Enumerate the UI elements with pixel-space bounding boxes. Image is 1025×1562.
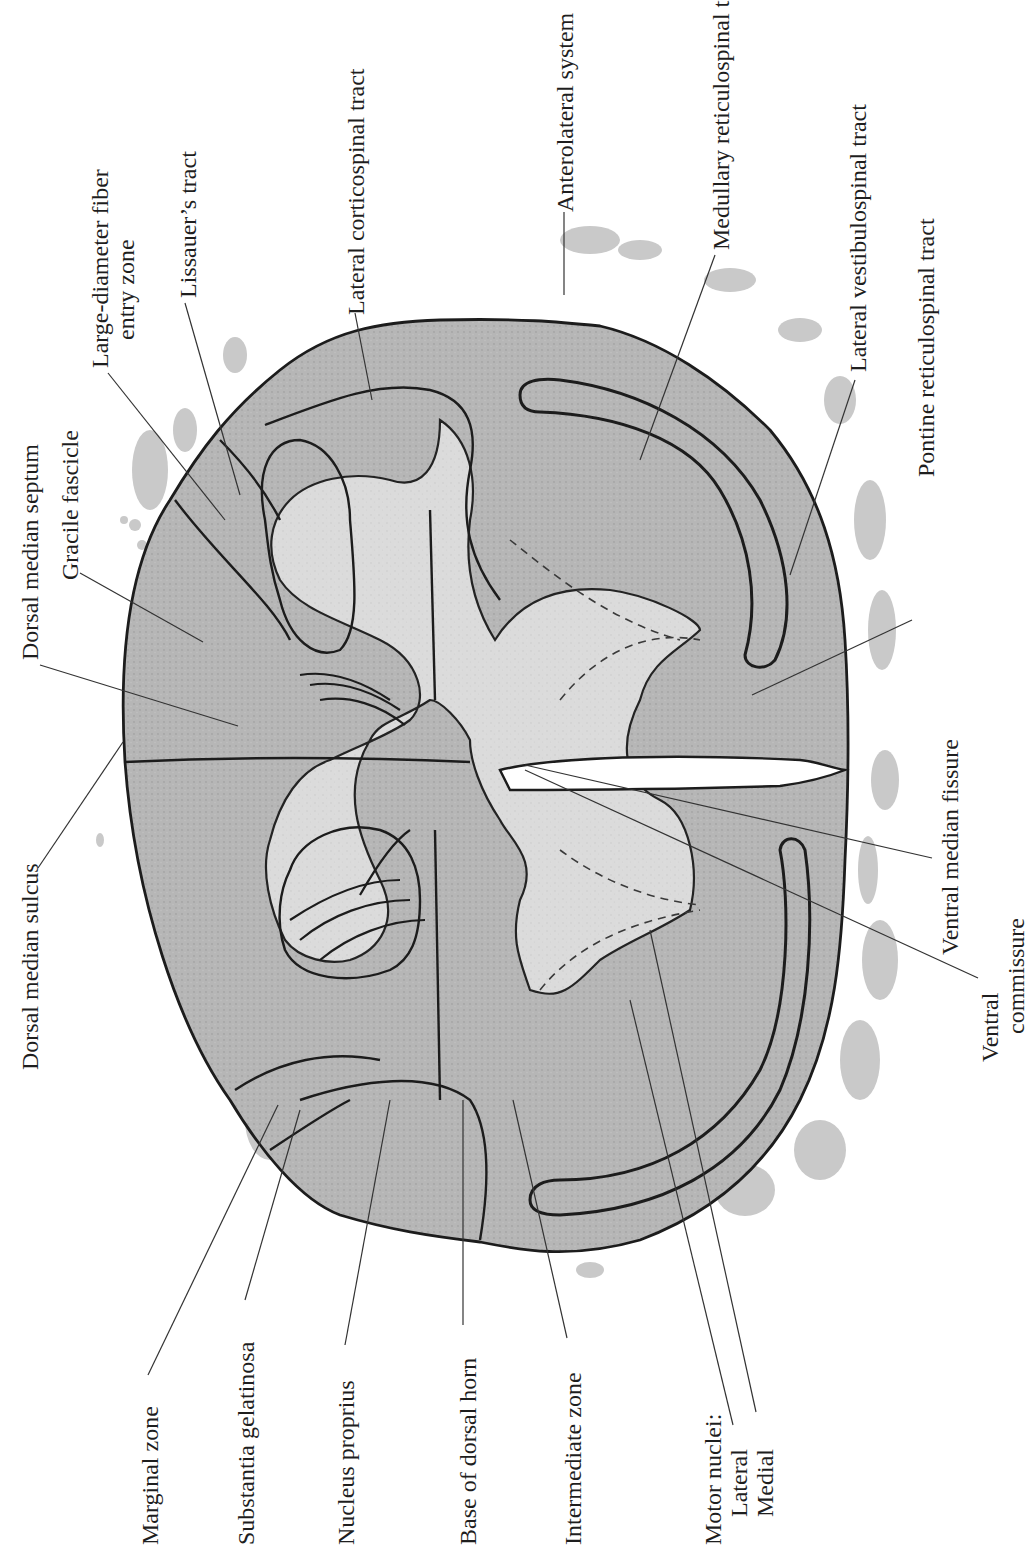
label-lissauers-tract: Lissauer’s tract xyxy=(175,151,201,298)
motor-nuclei-heading: Motor nuclei: xyxy=(700,1414,726,1545)
label-large-diameter-fiber-entry-zone: Large-diameter fiber entry zone xyxy=(87,169,139,368)
label-nucleus-proprius: Nucleus proprius xyxy=(333,1380,359,1545)
label-dorsal-median-sulcus: Dorsal median sulcus xyxy=(17,863,43,1070)
label-base-of-dorsal-horn: Base of dorsal horn xyxy=(455,1358,481,1545)
label-lateral-corticospinal-tract: Lateral corticospinal tract xyxy=(343,68,369,315)
label-marginal-zone: Marginal zone xyxy=(137,1406,163,1545)
label-dorsal-median-septum: Dorsal median septum xyxy=(17,444,43,660)
label-motor-nuclei: Motor nuclei: Lateral Medial xyxy=(700,1414,778,1545)
label-lateral-vestibulospinal-tract: Lateral vestibulospinal tract xyxy=(845,104,871,372)
spinal-cord-diagram xyxy=(0,0,1025,1562)
ventral-median-fissure xyxy=(500,757,845,790)
label-substantia-gelatinosa: Substantia gelatinosa xyxy=(233,1342,259,1545)
motor-nuclei-lateral: Lateral xyxy=(726,1414,752,1545)
label-anterolateral-system: Anterolateral system xyxy=(552,13,578,212)
label-ventral-median-fissure: Ventral median fissure xyxy=(937,739,963,955)
label-gracile-fascicle: Gracile fascicle xyxy=(57,430,83,580)
label-medullary-reticulospinal-tract: Medullary reticulospinal tract xyxy=(708,0,734,250)
label-intermediate-zone: Intermediate zone xyxy=(560,1372,586,1545)
label-ventral-commissure: Ventral commissure xyxy=(977,918,1025,1062)
label-pontine-reticulospinal-tract: Pontine reticulospinal tract xyxy=(913,218,939,477)
motor-nuclei-medial: Medial xyxy=(752,1414,778,1545)
